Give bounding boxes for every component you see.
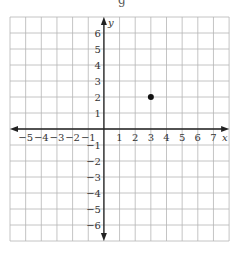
y-tick-label: 3 <box>95 76 101 87</box>
y-tick-label: −2 <box>86 156 101 167</box>
y-tick-label: 4 <box>95 60 101 71</box>
x-tick-label: 5 <box>179 132 185 143</box>
x-tick-label: −3 <box>50 132 65 143</box>
y-tick-label: −5 <box>86 204 101 215</box>
plotted-points <box>148 94 154 100</box>
x-tick-label: 6 <box>195 132 201 143</box>
x-axis-label: x <box>222 132 228 143</box>
y-tick-label: 5 <box>95 44 101 55</box>
x-tick-label: −2 <box>65 132 80 143</box>
header-fragment: g <box>118 0 126 7</box>
y-axis-label: y <box>107 17 114 28</box>
y-tick-label: 2 <box>95 92 101 103</box>
coordinate-plane: g −5−4−3−2−11234567123456−1−2−3−4−5−6 x … <box>0 0 241 259</box>
y-axis-down-arrow-icon <box>101 233 107 241</box>
x-tick-label: 7 <box>210 132 216 143</box>
x-tick-label: 4 <box>163 132 169 143</box>
data-point <box>148 94 154 100</box>
y-tick-label: −6 <box>86 220 101 231</box>
y-tick-label: 1 <box>95 108 101 119</box>
x-tick-label: 3 <box>148 132 154 143</box>
x-tick-label: 1 <box>116 132 122 143</box>
y-tick-label: 6 <box>95 28 101 39</box>
x-axis-left-arrow-icon <box>10 126 18 132</box>
y-tick-label: −1 <box>86 140 101 151</box>
x-tick-label: −4 <box>34 132 49 143</box>
y-tick-label: −4 <box>86 188 101 199</box>
x-tick-label: −5 <box>18 132 33 143</box>
x-tick-label: 2 <box>132 132 138 143</box>
y-tick-label: −3 <box>86 172 101 183</box>
y-axis-up-arrow-icon <box>101 17 107 25</box>
